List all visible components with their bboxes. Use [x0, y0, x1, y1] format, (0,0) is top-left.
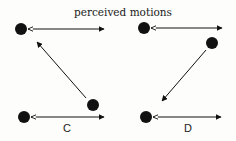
- dot-bottom: [18, 111, 30, 123]
- perceived-motions-diagram: perceived motions C D: [0, 0, 236, 141]
- diagonal-motion-arrow: [37, 42, 86, 98]
- diagonal-motion-arrow: [162, 50, 206, 101]
- dot-middle: [206, 37, 218, 49]
- dot-bottom: [140, 111, 152, 123]
- panel-label: D: [184, 122, 192, 134]
- panel-d: D: [138, 22, 222, 134]
- diagram-title: perceived motions: [74, 6, 172, 18]
- panel-c: C: [15, 23, 104, 134]
- dot-top: [138, 22, 150, 34]
- dot-top: [15, 23, 27, 35]
- panel-label: C: [63, 122, 71, 134]
- dot-middle: [87, 99, 99, 111]
